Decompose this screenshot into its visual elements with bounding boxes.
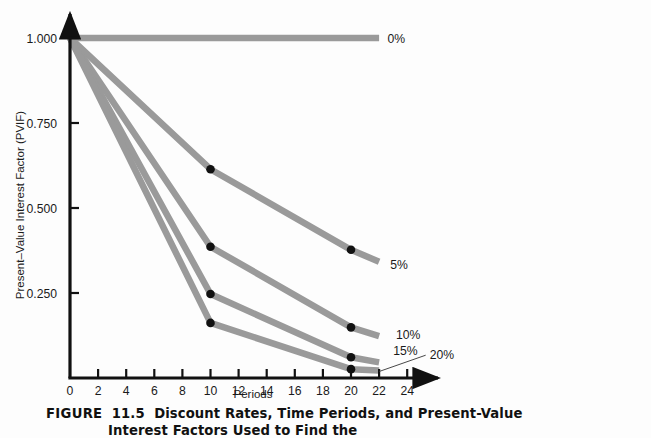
data-point-marker <box>206 290 215 299</box>
data-point-marker <box>206 165 215 174</box>
y-tick-label: 0.250 <box>27 287 58 301</box>
x-tick-label: 18 <box>316 384 330 398</box>
x-tick-label: 20 <box>344 384 358 398</box>
series-label-15pct: 15% <box>393 344 418 358</box>
series-label-0pct: 0% <box>388 32 406 46</box>
data-point-marker <box>206 242 215 251</box>
figure-container: 0.2500.5000.7501.000 0246810121416182022… <box>0 0 651 438</box>
data-point-marker <box>347 353 356 362</box>
caption-text-line1: Discount Rates, Time Periods, and Presen… <box>154 406 522 421</box>
x-tick-label: 6 <box>151 384 158 398</box>
data-point-marker <box>347 323 356 332</box>
chart-canvas: 0.2500.5000.7501.000 0246810121416182022… <box>0 0 651 400</box>
x-tick-label: 22 <box>372 384 386 398</box>
leader-lines <box>379 355 426 371</box>
caption-figure-number: 11.5 <box>112 406 145 421</box>
caption-first-line: FIGURE 11.5 Discount Rates, Time Periods… <box>46 406 606 423</box>
leader-line-20pct <box>379 355 426 371</box>
y-tick-label: 0.750 <box>27 117 58 131</box>
x-axis-title: Periods <box>234 388 273 400</box>
x-tick-label: 8 <box>179 384 186 398</box>
x-tick-label: 0 <box>67 384 74 398</box>
data-markers-group <box>206 165 355 374</box>
caption-figure-word: FIGURE <box>46 406 102 421</box>
series-label-20pct: 20% <box>430 348 455 362</box>
series-label-5pct: 5% <box>390 258 408 272</box>
x-tick-label: 10 <box>204 384 218 398</box>
caption-second-line: Interest Factors Used to Find the <box>46 423 606 438</box>
y-axis-tick-labels: 0.2500.5000.7501.000 <box>27 32 58 301</box>
series-label-10pct: 10% <box>396 328 421 342</box>
x-tick-label: 2 <box>95 384 102 398</box>
figure-caption: FIGURE 11.5 Discount Rates, Time Periods… <box>46 406 606 438</box>
y-tick-label: 0.500 <box>27 202 58 216</box>
x-tick-label: 4 <box>123 384 130 398</box>
data-series-group <box>70 38 379 371</box>
x-tick-label: 16 <box>288 384 302 398</box>
series-rate-labels: 0%5%10%15%20% <box>388 32 455 362</box>
series-line-20pct <box>70 38 379 371</box>
data-point-marker <box>206 319 215 328</box>
y-tick-label: 1.000 <box>27 32 58 46</box>
y-axis-title: Present–Value Interest Factor (PVIF) <box>14 111 26 300</box>
x-tick-label: 24 <box>400 384 414 398</box>
data-point-marker <box>347 246 356 255</box>
series-line-5pct <box>70 38 379 262</box>
